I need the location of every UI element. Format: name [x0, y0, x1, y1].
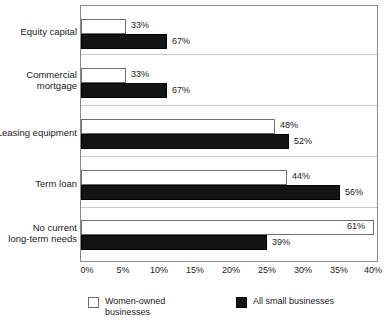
legend-label-all-small-businesses: All small businesses	[253, 296, 334, 307]
category-label-3: Term loan	[0, 178, 77, 189]
bar-value-all-small-0: 67%	[172, 36, 190, 47]
dark-swatch-icon	[236, 297, 247, 308]
x-axis-ticks: 0% 5% 10% 15% 20% 25% 30% 35% 40%	[80, 264, 378, 278]
category-label-2: Leasing equipment	[0, 127, 77, 138]
x-tick-2: 10%	[150, 264, 168, 276]
category-label-1: Commercial mortgage	[0, 69, 77, 91]
bar-women-owned-0[interactable]	[81, 19, 126, 34]
bar-women-owned-1[interactable]	[81, 68, 126, 83]
bar-value-women-owned-4: 61%	[347, 221, 365, 232]
light-swatch-icon	[88, 297, 99, 308]
legend-item-all-small-businesses[interactable]: All small businesses	[236, 296, 334, 308]
category-group-0: Equity capital 33% 67%	[81, 6, 377, 54]
x-tick-1: 5%	[116, 264, 129, 276]
x-tick-4: 20%	[222, 264, 240, 276]
bar-all-small-0[interactable]	[81, 34, 167, 49]
bar-women-owned-4[interactable]	[81, 220, 374, 235]
chart-legend: Women-owned businesses All small busines…	[88, 296, 388, 322]
category-group-4: No current long-term needs 61% 39%	[81, 207, 377, 261]
bar-all-small-2[interactable]	[81, 134, 289, 149]
bar-value-all-small-1: 67%	[172, 85, 190, 96]
bar-value-women-owned-3: 44%	[292, 171, 310, 182]
x-tick-5: 25%	[258, 264, 276, 276]
bar-chart: Equity capital 33% 67% Commercial mortga…	[0, 0, 390, 326]
legend-item-women-owned[interactable]: Women-owned businesses	[88, 296, 165, 318]
bar-value-women-owned-2: 48%	[280, 120, 298, 131]
x-tick-6: 30%	[294, 264, 312, 276]
bar-value-all-small-3: 56%	[345, 187, 363, 198]
x-tick-8: 40%	[364, 264, 382, 276]
bar-women-owned-3[interactable]	[81, 170, 287, 185]
bar-value-women-owned-1: 33%	[131, 69, 149, 80]
bar-all-small-4[interactable]	[81, 235, 267, 250]
x-tick-0: 0%	[80, 264, 93, 276]
bar-all-small-3[interactable]	[81, 185, 340, 200]
bar-all-small-1[interactable]	[81, 83, 167, 98]
category-label-4: No current long-term needs	[0, 222, 77, 244]
bar-value-all-small-2: 52%	[294, 136, 312, 147]
category-group-2: Leasing equipment 48% 52%	[81, 105, 377, 156]
category-group-1: Commercial mortgage 33% 67%	[81, 54, 377, 105]
bar-women-owned-2[interactable]	[81, 119, 275, 134]
category-label-0: Equity capital	[0, 26, 77, 37]
category-group-3: Term loan 44% 56%	[81, 156, 377, 207]
x-tick-7: 35%	[330, 264, 348, 276]
legend-label-women-owned: Women-owned businesses	[105, 296, 165, 318]
x-tick-3: 15%	[186, 264, 204, 276]
plot-area: Equity capital 33% 67% Commercial mortga…	[80, 5, 378, 262]
bar-value-women-owned-0: 33%	[131, 20, 149, 31]
bar-value-all-small-4: 39%	[272, 237, 290, 248]
